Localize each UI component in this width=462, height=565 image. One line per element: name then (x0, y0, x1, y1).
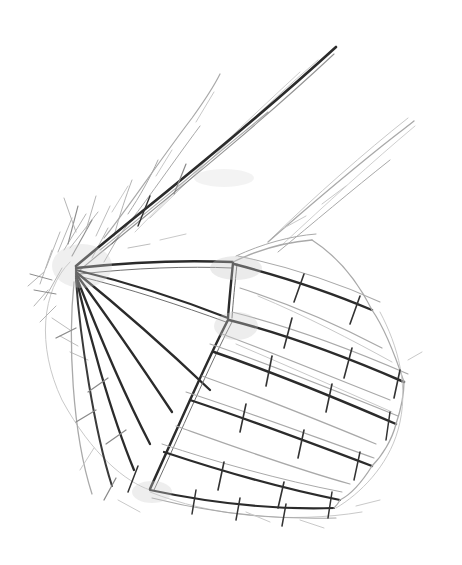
wing-drawing-canvas: Insect Wing Venation Study graphite penc… (0, 0, 462, 565)
smudge-lower-node (132, 481, 172, 503)
smudge-near-fork (210, 256, 262, 280)
wing-venation-sketch: Insect Wing Venation Study graphite penc… (0, 0, 462, 565)
smudge-base (52, 244, 112, 288)
smudge-near-midfork (214, 312, 258, 340)
smudge-upper-shaft (194, 169, 254, 187)
